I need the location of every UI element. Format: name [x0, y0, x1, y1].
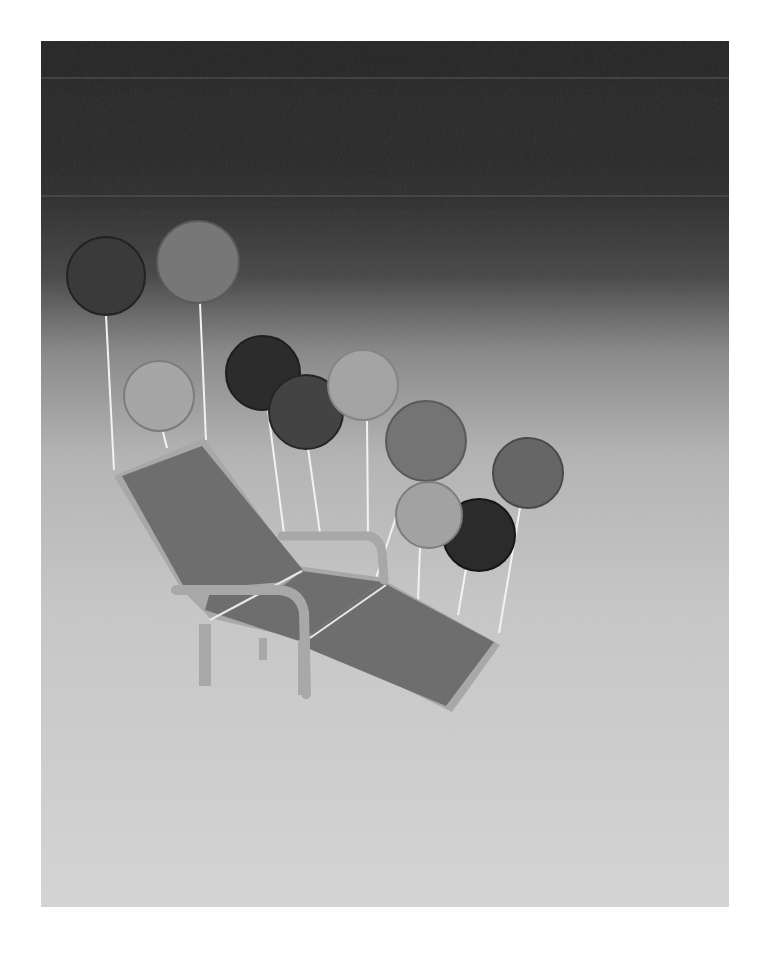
balloon-8 [493, 438, 563, 508]
balloon-6 [328, 350, 398, 420]
balloon-10 [396, 482, 462, 548]
balloon-string [367, 421, 368, 533]
balloon-2 [157, 221, 239, 303]
chair-leg [259, 638, 267, 660]
balloon-3 [124, 361, 194, 431]
chair-leg [199, 624, 211, 686]
balloon-1 [67, 237, 145, 315]
artwork-canvas [0, 0, 771, 958]
balloon-7 [386, 401, 466, 481]
